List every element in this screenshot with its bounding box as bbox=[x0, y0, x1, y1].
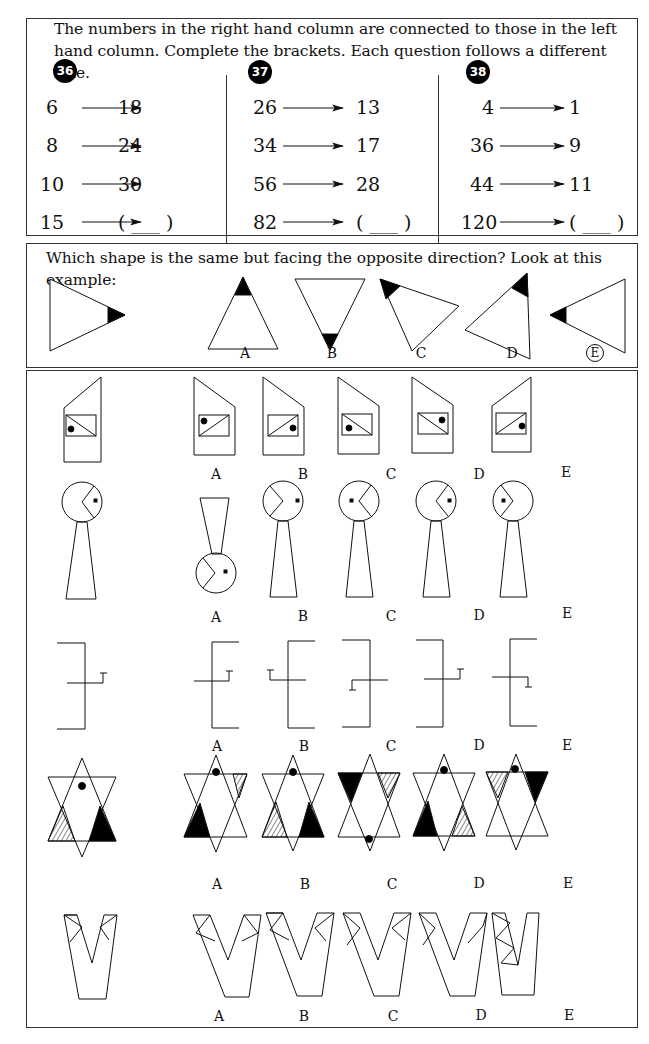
row2-option-c bbox=[339, 481, 379, 597]
option-label-b[interactable]: B bbox=[295, 876, 315, 892]
option-label-c[interactable]: C bbox=[381, 466, 401, 482]
option-label-c[interactable]: C bbox=[411, 345, 431, 361]
option-label-e[interactable]: E bbox=[557, 737, 577, 753]
row4-stem bbox=[48, 758, 116, 857]
option-label-a[interactable]: A bbox=[235, 345, 255, 361]
row5-option-d bbox=[419, 913, 487, 996]
option-label-e[interactable]: E bbox=[559, 1007, 579, 1023]
option-label-a[interactable]: A bbox=[209, 1008, 229, 1024]
option-label-d[interactable]: D bbox=[469, 875, 489, 891]
option-label-e-circled[interactable]: E bbox=[585, 344, 605, 362]
example-triangle bbox=[50, 279, 125, 351]
row3-option-e bbox=[492, 639, 537, 726]
row2-option-e bbox=[493, 481, 533, 597]
option-label-d[interactable]: D bbox=[469, 737, 489, 753]
option-label-d[interactable]: D bbox=[471, 1007, 491, 1023]
row5-option-c bbox=[343, 913, 411, 996]
row1-option-c bbox=[338, 377, 379, 454]
row4-option-d bbox=[413, 754, 475, 851]
row3-option-d bbox=[416, 640, 464, 727]
row1-option-d bbox=[412, 377, 453, 453]
row1-stem bbox=[64, 377, 101, 462]
option-label-a[interactable]: A bbox=[206, 609, 226, 625]
option-label-c[interactable]: C bbox=[382, 876, 402, 892]
option-label-b[interactable]: B bbox=[293, 466, 313, 482]
row1-option-b bbox=[263, 377, 304, 455]
arrows bbox=[0, 0, 649, 240]
row3-option-b bbox=[267, 641, 315, 728]
option-label-c[interactable]: C bbox=[381, 738, 401, 754]
row5-option-a bbox=[193, 915, 261, 997]
option-label-b[interactable]: B bbox=[322, 345, 342, 361]
option-label-e[interactable]: E bbox=[556, 464, 576, 480]
row3-option-c bbox=[342, 640, 388, 727]
option-label-e[interactable]: E bbox=[558, 875, 578, 891]
option-label-b[interactable]: B bbox=[294, 1008, 314, 1024]
row4-option-b bbox=[262, 755, 324, 851]
option-label-d[interactable]: D bbox=[469, 607, 489, 623]
row1-option-e bbox=[492, 377, 531, 452]
row2-option-a bbox=[196, 498, 236, 593]
option-label-a[interactable]: A bbox=[206, 466, 226, 482]
row1-option-a bbox=[194, 377, 235, 455]
row5-stem bbox=[64, 915, 117, 999]
row4-option-a bbox=[184, 755, 247, 852]
option-label-b[interactable]: B bbox=[293, 608, 313, 624]
row3-option-a bbox=[194, 642, 239, 728]
option-label-a[interactable]: A bbox=[207, 738, 227, 754]
option-label-c[interactable]: C bbox=[383, 1008, 403, 1024]
option-label-e[interactable]: E bbox=[557, 605, 577, 621]
row2-option-d bbox=[416, 481, 456, 597]
row2-option-b bbox=[263, 481, 303, 597]
row4-option-e bbox=[486, 754, 548, 850]
figure-questions bbox=[0, 370, 649, 1028]
row4-option-c bbox=[338, 754, 400, 851]
row3-stem bbox=[57, 643, 107, 729]
answer-circle: E bbox=[586, 344, 604, 362]
option-label-c[interactable]: C bbox=[381, 608, 401, 624]
row2-stem bbox=[62, 482, 102, 599]
option-label-a[interactable]: A bbox=[207, 876, 227, 892]
row5-option-b bbox=[266, 913, 334, 996]
option-label-d[interactable]: D bbox=[502, 345, 522, 361]
option-label-b[interactable]: B bbox=[294, 738, 314, 754]
option-label-d[interactable]: D bbox=[469, 466, 489, 482]
row5-option-e bbox=[492, 913, 539, 995]
